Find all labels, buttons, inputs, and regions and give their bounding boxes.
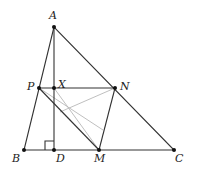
label-N: N bbox=[120, 81, 130, 92]
label-D: D bbox=[56, 153, 65, 164]
segment-XM bbox=[54, 88, 99, 150]
label-P: P bbox=[27, 81, 34, 92]
point-N bbox=[113, 86, 117, 90]
label-A: A bbox=[49, 10, 57, 21]
point-B bbox=[22, 148, 26, 152]
point-A bbox=[52, 25, 56, 29]
segment-N-aux bbox=[60, 88, 115, 112]
point-P bbox=[37, 86, 41, 90]
label-C: C bbox=[175, 153, 183, 164]
segment-NM bbox=[99, 88, 115, 150]
label-B: B bbox=[12, 153, 20, 164]
segment-P-aux bbox=[39, 88, 103, 130]
label-M: M bbox=[94, 153, 105, 164]
label-X: X bbox=[58, 79, 66, 90]
point-X bbox=[52, 86, 56, 90]
geometry-diagram: A B C D M P X N bbox=[0, 0, 197, 172]
main-lines bbox=[24, 27, 174, 150]
